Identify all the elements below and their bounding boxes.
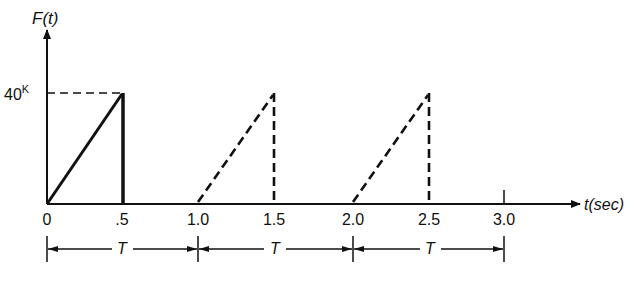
x-axis-label: t(sec)	[584, 196, 624, 213]
y-axis-label: F(t)	[32, 9, 58, 28]
svg-text:T: T	[117, 240, 128, 257]
y-tick-40: 40K	[4, 83, 30, 103]
svg-text:1.0: 1.0	[187, 211, 209, 228]
svg-text:T: T	[425, 240, 436, 257]
pulse-1	[47, 93, 123, 204]
svg-text:2.0: 2.0	[342, 211, 364, 228]
svg-text:1.5: 1.5	[263, 211, 285, 228]
pulse-2	[198, 93, 274, 204]
svg-text:.5: .5	[115, 211, 128, 228]
sawtooth-diagram: F(t) t(sec) 40K 0 .5 1.0 1.5 2.0 2.5 3.0	[0, 0, 636, 289]
svg-text:T: T	[270, 240, 281, 257]
svg-text:2.5: 2.5	[418, 211, 440, 228]
pulse-3	[353, 93, 429, 204]
x-tick-labels: 0 .5 1.0 1.5 2.0 2.5 3.0	[43, 211, 516, 228]
units-superscript: K	[22, 83, 30, 95]
svg-text:0: 0	[43, 211, 52, 228]
svg-text:3.0: 3.0	[493, 211, 515, 228]
